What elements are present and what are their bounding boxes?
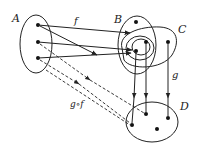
composition-diagram: A B C D f g [0, 0, 200, 151]
set-A-label: A [11, 12, 20, 25]
set-D-label: D [179, 100, 189, 113]
mapping-gof-label: g∘f [70, 99, 85, 109]
intersection-BC [126, 36, 154, 60]
set-C-label: C [178, 23, 187, 36]
set-B-label: B [113, 13, 122, 26]
mapping-g-label: g [172, 69, 178, 80]
set-B [118, 16, 156, 74]
mapping-f-label: f [73, 15, 80, 26]
set-D [126, 102, 178, 142]
set-A [20, 15, 52, 73]
